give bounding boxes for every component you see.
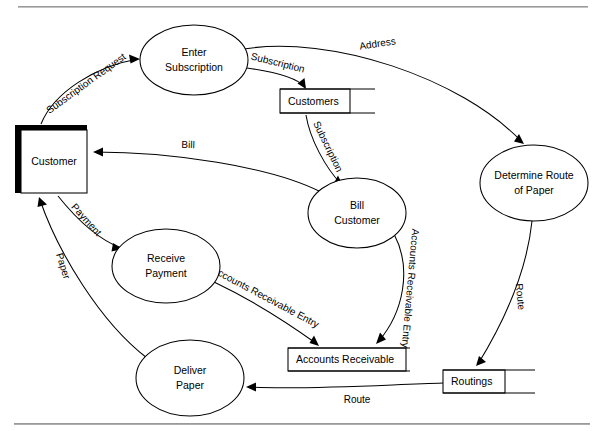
flow-label-subscription-request: Subscription Request bbox=[44, 51, 128, 116]
process-bill-customer[interactable]: Bill Customer bbox=[308, 178, 406, 248]
arrowhead bbox=[476, 356, 486, 366]
flow-label-route-store: Route bbox=[514, 283, 527, 311]
process-bill-customer-label-1: Bill bbox=[350, 199, 364, 211]
datastore-accounts-receivable[interactable]: Accounts Receivable bbox=[288, 348, 410, 371]
dfd-canvas: Subscription Request Subscription Addres… bbox=[0, 0, 602, 431]
arrowhead bbox=[246, 383, 256, 392]
arrowhead bbox=[129, 55, 140, 64]
data-flow-diagram: Subscription Request Subscription Addres… bbox=[0, 0, 602, 431]
flow-label-route-deliver: Route bbox=[344, 394, 371, 405]
arrowhead bbox=[310, 336, 320, 347]
entity-customer[interactable]: Customer bbox=[15, 125, 87, 193]
flow-subscription-to-store: Subscription bbox=[247, 51, 306, 89]
process-deliver-paper[interactable]: Deliver Paper bbox=[136, 340, 244, 416]
process-enter-subscription-label-1: Enter bbox=[181, 46, 207, 58]
datastore-routings[interactable]: Routings bbox=[443, 370, 535, 393]
process-determine-route-label-2: of Paper bbox=[514, 184, 554, 196]
flow-bill: Bill bbox=[93, 139, 321, 192]
process-deliver-paper-label-1: Deliver bbox=[174, 364, 207, 376]
process-determine-route[interactable]: Determine Route of Paper bbox=[480, 145, 588, 221]
flow-label-address: Address bbox=[358, 35, 396, 52]
datastore-accounts-receivable-label: Accounts Receivable bbox=[296, 353, 394, 365]
flow-label-subscription-store: Subscription bbox=[250, 51, 306, 75]
top-rule bbox=[18, 6, 588, 8]
flow-ar-entry-payment: Accounts Receivable Entry bbox=[210, 264, 321, 346]
process-receive-payment[interactable]: Receive Payment bbox=[112, 229, 220, 303]
flow-label-payment: Payment bbox=[69, 201, 104, 238]
flow-label-ar-entry-payment: Accounts Receivable Entry bbox=[210, 264, 321, 330]
process-enter-subscription-label-2: Subscription bbox=[165, 61, 223, 73]
datastore-routings-label: Routings bbox=[451, 375, 492, 387]
flow-ar-entry-bill: Accounts Receivable Entry bbox=[376, 228, 421, 348]
arrowhead bbox=[298, 78, 307, 89]
process-receive-payment-label-2: Payment bbox=[145, 267, 187, 279]
flow-label-paper: Paper bbox=[54, 252, 73, 281]
flow-subscription-to-bill: Subscription bbox=[306, 115, 345, 186]
flow-payment: Payment bbox=[58, 196, 123, 252]
process-receive-payment-label-1: Receive bbox=[147, 252, 185, 264]
entity-customer-label: Customer bbox=[31, 155, 77, 167]
flow-route-to-deliver: Route bbox=[246, 383, 443, 406]
datastore-customers[interactable]: Customers bbox=[280, 89, 375, 113]
flow-label-bill: Bill bbox=[181, 139, 195, 150]
process-deliver-paper-label-2: Paper bbox=[176, 379, 205, 391]
datastore-customers-label: Customers bbox=[288, 95, 339, 107]
arrowhead bbox=[38, 197, 48, 207]
flow-route-to-store: Route bbox=[476, 221, 532, 366]
flow-subscription-request: Subscription Request bbox=[41, 51, 140, 124]
arrowhead bbox=[93, 148, 103, 157]
process-enter-subscription[interactable]: Enter Subscription bbox=[140, 25, 248, 95]
bottom-rule bbox=[14, 423, 590, 425]
process-bill-customer-label-2: Customer bbox=[334, 214, 380, 226]
process-determine-route-label-1: Determine Route bbox=[494, 169, 574, 181]
